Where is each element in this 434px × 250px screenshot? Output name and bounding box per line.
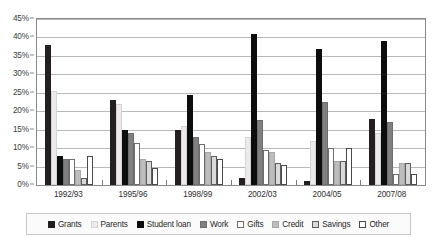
y-axis-tick-label: 30% [13, 69, 29, 78]
y-axis-tick-label: 0% [17, 180, 29, 189]
bar-chart: 0%5%10%15%20%25%30%35%40%45% 1992/931995… [0, 0, 434, 250]
y-axis-tick-label: 10% [13, 143, 29, 152]
legend-item-credit[interactable]: Credit [272, 220, 303, 229]
y-axis-tick-mark [30, 91, 34, 92]
legend-item-student-loan[interactable]: Student loan [137, 220, 191, 229]
x-axis-tick-label: 2002/03 [248, 190, 277, 199]
bar [152, 168, 158, 185]
y-axis-tick-mark [30, 36, 34, 37]
y-axis-tick-label: 45% [13, 14, 29, 23]
bar-group-bars [231, 19, 296, 185]
bar-group-bars [102, 19, 167, 185]
x-axis-tick-label: 2007/08 [377, 190, 406, 199]
legend-label: Work [210, 220, 228, 229]
gridline [37, 185, 425, 186]
bar-group [360, 19, 425, 185]
bar-group [296, 19, 361, 185]
y-axis-tick-mark [30, 165, 34, 166]
x-axis-tick-label: 1992/93 [54, 190, 83, 199]
y-axis-tick-mark [30, 18, 34, 19]
legend-item-other[interactable]: Other [359, 220, 389, 229]
y-axis-tick-label: 40% [13, 32, 29, 41]
x-axis-tick-mark [231, 180, 232, 185]
legend-item-work[interactable]: Work [200, 220, 228, 229]
x-axis-tick-label: 1998/99 [183, 190, 212, 199]
x-axis-tick-mark [102, 180, 103, 185]
y-axis-tick-label: 25% [13, 87, 29, 96]
y-axis-tick-mark [30, 110, 34, 111]
bar-group-bars [360, 19, 425, 185]
y-axis-tick-mark [30, 73, 34, 74]
bar [281, 165, 287, 185]
bar-group [37, 19, 102, 185]
y-axis: 0%5%10%15%20%25%30%35%40%45% [0, 18, 34, 186]
bar [411, 174, 417, 185]
plot-area [36, 18, 426, 186]
y-axis-tick-label: 20% [13, 106, 29, 115]
legend-item-grants[interactable]: Grants [48, 220, 82, 229]
y-axis-tick-label: 5% [17, 161, 29, 170]
y-axis-tick-mark [30, 184, 34, 185]
x-axis: 1992/931995/961998/992002/032004/052007/… [36, 188, 426, 204]
legend-item-gifts[interactable]: Gifts [237, 220, 263, 229]
bar [217, 159, 223, 185]
bar [87, 156, 93, 186]
y-axis-tick-mark [30, 128, 34, 129]
x-axis-tick-mark [360, 180, 361, 185]
y-axis-tick-mark [30, 54, 34, 55]
legend-label: Parents [101, 220, 128, 229]
y-axis-tick-mark [30, 147, 34, 148]
chart-legend: GrantsParentsStudent loanWorkGiftsCredit… [26, 213, 411, 235]
x-axis-tick-label: 2004/05 [313, 190, 342, 199]
legend-item-savings[interactable]: Savings [312, 220, 350, 229]
bar [346, 148, 352, 185]
bar-group-bars [166, 19, 231, 185]
bar-group-bars [37, 19, 102, 185]
x-axis-tick-mark [296, 180, 297, 185]
x-axis-tick-label: 1995/96 [119, 190, 148, 199]
bar-group [166, 19, 231, 185]
legend-swatch-icon [359, 221, 366, 228]
legend-swatch-icon [48, 221, 55, 228]
legend-label: Other [369, 220, 389, 229]
bar-group [231, 19, 296, 185]
bar-group-bars [296, 19, 361, 185]
legend-label: Grants [58, 220, 82, 229]
legend-label: Gifts [247, 220, 263, 229]
x-axis-tick-mark [166, 180, 167, 185]
bar-group [102, 19, 167, 185]
legend-item-parents[interactable]: Parents [91, 220, 128, 229]
legend-swatch-icon [272, 221, 279, 228]
y-axis-tick-label: 15% [13, 124, 29, 133]
legend-label: Student loan [147, 220, 191, 229]
legend-swatch-icon [200, 221, 207, 228]
legend-swatch-icon [312, 221, 319, 228]
legend-label: Credit [282, 220, 303, 229]
legend-swatch-icon [137, 221, 144, 228]
y-axis-tick-label: 35% [13, 50, 29, 59]
legend-label: Savings [322, 220, 350, 229]
legend-swatch-icon [237, 221, 244, 228]
legend-swatch-icon [91, 221, 98, 228]
